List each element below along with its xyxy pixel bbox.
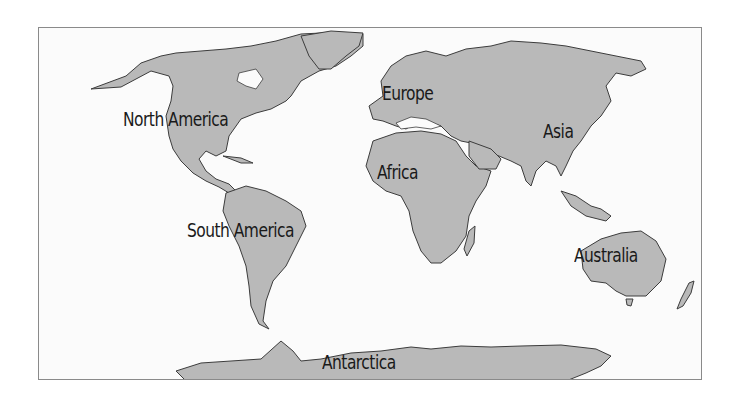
label-south-america: South America <box>187 218 294 242</box>
label-antarctica: Antarctica <box>322 350 396 374</box>
world-map-frame <box>38 27 702 380</box>
label-australia: Australia <box>574 243 638 267</box>
southeast-asia-islands <box>561 191 611 221</box>
new-zealand <box>677 281 694 309</box>
caribbean-islands <box>223 156 253 163</box>
south-america-landmass <box>223 186 306 329</box>
label-europe: Europe <box>382 81 433 105</box>
label-north-america: North America <box>123 107 228 131</box>
label-asia: Asia <box>543 119 573 143</box>
label-africa: Africa <box>377 160 418 184</box>
tasmania <box>626 299 633 306</box>
world-map-svg <box>39 28 702 380</box>
